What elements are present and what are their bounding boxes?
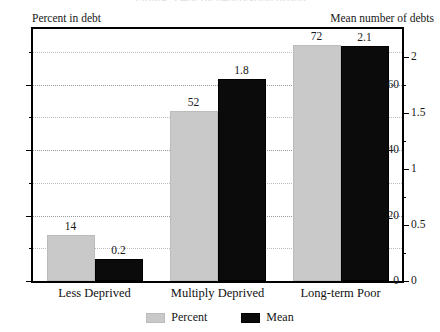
left-axis-minor-tick: [29, 52, 33, 53]
left-axis-tick-label: 60: [388, 79, 400, 91]
left-axis-tick: [26, 281, 33, 282]
right-axis-tick: [402, 281, 409, 282]
right-axis-minor-tick: [402, 141, 406, 142]
right-axis-tick: [402, 113, 409, 114]
category-label: Multiply Deprived: [156, 287, 279, 300]
right-axis-tick-label: 2: [411, 51, 417, 63]
plot-inner: 140.2521.8722.1: [33, 29, 402, 281]
legend-swatch-mean-icon: [241, 313, 260, 323]
category-label: Long-term Poor: [279, 287, 402, 300]
chart-legend: Percent Mean: [0, 310, 440, 325]
left-axis-caption: Percent in debt: [32, 12, 101, 24]
bar-value-label: 0.2: [95, 245, 143, 257]
legend-swatch-percent-icon: [146, 313, 165, 323]
bar-percent: [293, 45, 341, 281]
bar-mean: [218, 79, 266, 281]
right-axis-tick: [402, 57, 409, 58]
bar-value-label: 1.8: [218, 65, 266, 77]
left-axis-minor-tick: [29, 117, 33, 118]
left-axis-tick-label: 40: [388, 144, 400, 156]
left-axis-tick: [26, 216, 33, 217]
right-axis-tick-label: 0: [411, 275, 417, 287]
right-axis-tick: [402, 225, 409, 226]
dual-axis-bar-chart: Figure: Debt by deprivation group Percen…: [0, 0, 440, 332]
right-axis-tick: [402, 169, 409, 170]
right-axis-tick-label: 0.5: [411, 219, 425, 231]
bar-percent: [47, 235, 95, 281]
legend-label-mean: Mean: [266, 310, 293, 325]
left-axis-minor-tick: [29, 183, 33, 184]
left-axis-minor-tick: [29, 248, 33, 249]
legend-label-percent: Percent: [171, 310, 207, 325]
clipped-chart-title: Figure: Debt by deprivation group: [0, 0, 440, 1]
bar-percent: [170, 111, 218, 281]
plot-area: 140.2521.8722.1: [31, 27, 404, 283]
right-axis-tick-label: 1.5: [411, 107, 425, 119]
left-axis-tick: [26, 85, 33, 86]
bar-value-label: 52: [170, 97, 218, 109]
right-axis-caption: Mean number of debts: [330, 12, 434, 24]
category-label: Less Deprived: [33, 287, 156, 300]
left-axis-tick: [26, 150, 33, 151]
left-axis-tick-label: 0: [393, 275, 399, 287]
legend-item-mean: Mean: [241, 310, 293, 325]
right-axis-minor-tick: [402, 253, 406, 254]
bar-value-label: 2.1: [341, 32, 389, 44]
legend-item-percent: Percent: [146, 310, 207, 325]
right-axis-minor-tick: [402, 85, 406, 86]
right-axis-minor-tick: [402, 197, 406, 198]
right-axis-tick-label: 1: [411, 163, 417, 175]
bar-mean: [341, 46, 389, 281]
bar-value-label: 14: [47, 221, 95, 233]
left-axis-tick-label: 20: [388, 210, 400, 222]
bar-value-label: 72: [293, 31, 341, 43]
bar-mean: [95, 259, 143, 281]
